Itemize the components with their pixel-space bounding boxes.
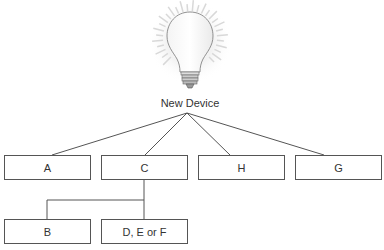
root-label: New Device [130, 97, 250, 109]
light-ray [192, 0, 193, 11]
diagram-canvas [0, 0, 384, 250]
light-ray [187, 4, 188, 11]
node-h: H [198, 155, 285, 180]
node-c: C [101, 155, 188, 180]
node-b: B [4, 219, 91, 244]
light-ray [217, 40, 224, 41]
node-g: G [295, 155, 382, 180]
edge-root-g [187, 113, 324, 155]
light-ray [152, 40, 163, 41]
light-ray [156, 35, 163, 36]
lightbulb-icon [148, 0, 232, 88]
edge-root-a [52, 113, 187, 155]
node-a: A [4, 155, 91, 180]
node-def: D, E or F [101, 219, 188, 244]
light-ray [217, 35, 228, 36]
